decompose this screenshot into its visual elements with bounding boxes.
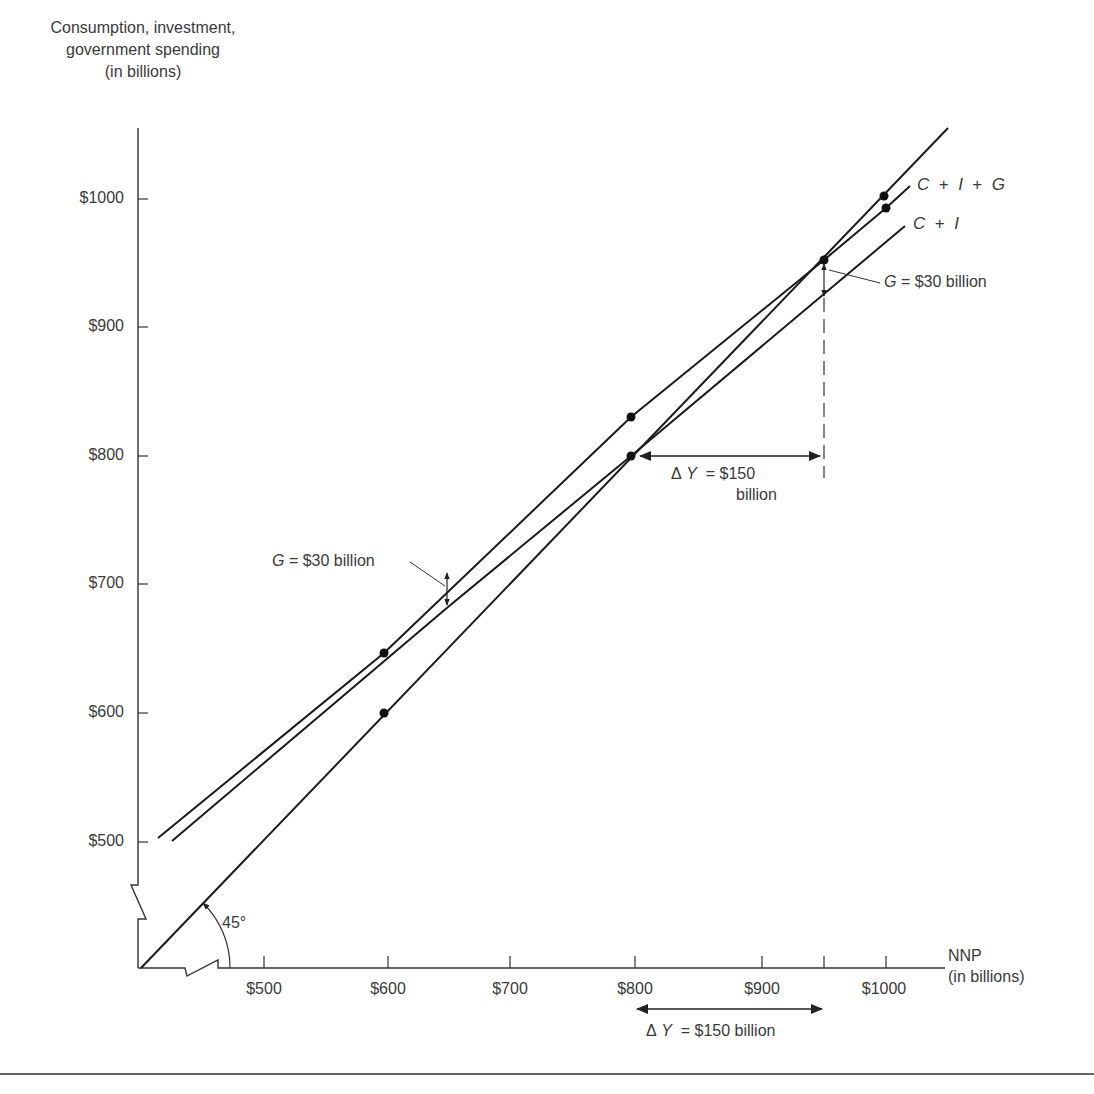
annotation-g-left: G = $30 billion: [272, 552, 375, 570]
y-tick-label-600: $600: [28, 703, 124, 721]
y-tick-label-1000: $1000: [28, 189, 124, 207]
annotation-delta-y-bottom: Δ Y = $150 billion: [646, 1022, 775, 1040]
y-ticks: [138, 199, 148, 842]
series-label-c-plus-i-plus-g: C + I + G: [917, 175, 1005, 195]
y-tick-label-900: $900: [28, 317, 124, 335]
angle-arc: [203, 903, 230, 968]
x-tick-label-800: $800: [600, 980, 670, 998]
x-ticks: [264, 956, 886, 968]
annotation-delta-y-mid-billion: billion: [736, 486, 777, 504]
x-tick-label-900: $900: [727, 980, 797, 998]
angle-label-45: 45°: [222, 914, 246, 932]
g-leader-left: [410, 562, 445, 586]
g-leader-right: [829, 270, 880, 283]
y-tick-label-700: $700: [28, 574, 124, 592]
x-axis-title-line-1: NNP: [948, 947, 982, 965]
x-tick-label-500: $500: [229, 980, 299, 998]
series-label-c-plus-i: C + I: [913, 214, 959, 234]
y-tick-label-500: $500: [28, 832, 124, 850]
x-tick-label-600: $600: [353, 980, 423, 998]
y-tick-label-800: $800: [28, 446, 124, 464]
x-tick-label-700: $700: [475, 980, 545, 998]
chart-canvas: [0, 0, 1094, 1094]
line-c-plus-i: [172, 226, 905, 841]
x-tick-label-1000: $1000: [849, 980, 919, 998]
annotation-delta-y-mid: Δ Y = $150: [671, 465, 755, 483]
x-axis-title-line-2: (in billions): [948, 968, 1024, 986]
line-45-degree: [141, 128, 948, 968]
annotation-g-right: G = $30 billion: [884, 273, 987, 291]
